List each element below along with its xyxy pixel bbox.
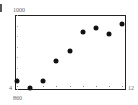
- x-tick: [109, 86, 110, 87]
- data-point: [41, 78, 46, 83]
- data-point: [120, 21, 125, 26]
- data-point: [106, 31, 111, 36]
- x-tick: [17, 86, 18, 87]
- data-point: [93, 26, 98, 31]
- y-max-label: 1000: [13, 7, 25, 13]
- x-min-label: 4: [9, 85, 12, 91]
- y-tick: [17, 68, 18, 69]
- data-point: [54, 58, 59, 63]
- x-max-label: 12: [128, 85, 134, 91]
- x-tick: [96, 86, 97, 87]
- y-tick: [17, 89, 18, 90]
- y-min-label: 860: [13, 95, 22, 101]
- data-point: [15, 78, 20, 83]
- y-tick: [17, 57, 18, 58]
- data-point: [80, 30, 85, 35]
- data-point: [67, 48, 72, 53]
- y-tick: [17, 36, 18, 37]
- x-tick: [122, 86, 123, 87]
- panel-label-fragment: [0, 4, 2, 12]
- data-point: [28, 85, 33, 90]
- y-tick: [17, 15, 18, 16]
- y-tick: [17, 47, 18, 48]
- x-tick: [43, 86, 44, 87]
- y-tick: [17, 26, 18, 27]
- x-tick: [70, 86, 71, 87]
- x-tick: [56, 86, 57, 87]
- x-tick: [83, 86, 84, 87]
